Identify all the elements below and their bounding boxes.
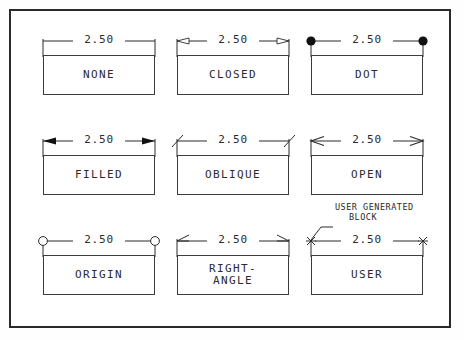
style-label: NONE (83, 69, 115, 81)
style-box-origin: ORIGIN (43, 255, 155, 295)
dimension-text: 2.50 (216, 33, 250, 46)
dimension-text: 2.50 (350, 233, 384, 246)
style-box-right-angle: RIGHT- ANGLE (177, 255, 289, 295)
dimension-text: 2.50 (82, 33, 116, 46)
style-cell-user: USER GENERATED BLOCK 2.50 USER (297, 225, 437, 321)
style-label: USER (351, 269, 383, 281)
style-cell-right-angle: 2.50 RIGHT- ANGLE (163, 225, 303, 321)
style-box-open: OPEN (311, 155, 423, 195)
dimension-text: 2.50 (82, 133, 116, 146)
style-label: RIGHT- ANGLE (209, 263, 257, 287)
style-label: DOT (355, 69, 379, 81)
annotation-line-2: BLOCK (349, 213, 377, 223)
style-label: OBLIQUE (205, 169, 261, 181)
style-cell-none: 2.50 NONE (29, 25, 169, 121)
style-box-dot: DOT (311, 55, 423, 95)
style-box-filled: FILLED (43, 155, 155, 195)
style-cell-origin: 2.50 ORIGIN (29, 225, 169, 321)
style-label: OPEN (351, 169, 383, 181)
style-box-user: USER (311, 255, 423, 295)
dimension-text: 2.50 (216, 233, 250, 246)
dimension-text: 2.50 (350, 33, 384, 46)
dimension-text: 2.50 (82, 233, 116, 246)
dimension-text: 2.50 (216, 133, 250, 146)
style-cell-oblique: 2.50 OBLIQUE (163, 125, 303, 221)
style-label: FILLED (75, 169, 123, 181)
style-cell-filled: 2.50 FILLED (29, 125, 169, 221)
style-label: ORIGIN (75, 269, 123, 281)
style-label: CLOSED (209, 69, 257, 81)
style-box-closed: CLOSED (177, 55, 289, 95)
style-box-oblique: OBLIQUE (177, 155, 289, 195)
dimension-text: 2.50 (350, 133, 384, 146)
drawing-frame: 2.50 NONE 2.50 CLOSED (9, 9, 451, 328)
style-cell-dot: 2.50 DOT (297, 25, 437, 121)
style-cell-closed: 2.50 CLOSED (163, 25, 303, 121)
drawing-sheet: 2.50 NONE 2.50 CLOSED (0, 0, 464, 340)
style-grid: 2.50 NONE 2.50 CLOSED (11, 11, 453, 330)
style-box-none: NONE (43, 55, 155, 95)
